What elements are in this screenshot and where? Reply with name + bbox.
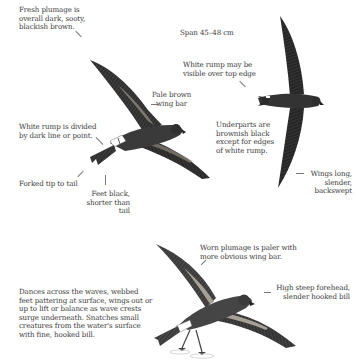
label-white-rump-visible: White rump may be visible over top edge <box>183 61 256 78</box>
label-feet-black: Feet black, shorter than tail <box>76 190 130 216</box>
label-fresh-plumage: Fresh plumage is overall dark, sooty, bl… <box>19 6 85 32</box>
label-pale-wing-bar: Pale brown wing bar <box>152 91 191 108</box>
label-forked-tail: Forked tip to tail <box>19 180 78 189</box>
leader-line <box>296 173 304 174</box>
label-white-rump-divided: White rump is divided by dark line or po… <box>19 123 96 140</box>
label-behavior: Dances across the waves, webbed feet pat… <box>19 288 152 340</box>
leader-line <box>105 175 106 185</box>
leader-line <box>151 104 159 105</box>
label-worn-plumage: Worn plumage is paler with more obvious … <box>200 244 297 261</box>
bird-underside-illustration <box>258 12 328 192</box>
label-underparts: Underparts are brownish black except for… <box>216 121 274 155</box>
leader-line <box>264 292 271 293</box>
leader-line <box>239 81 245 87</box>
label-span: Span 45–48 cm <box>180 29 234 38</box>
label-forehead: High steep forehead, slender hooked bill <box>262 284 350 301</box>
